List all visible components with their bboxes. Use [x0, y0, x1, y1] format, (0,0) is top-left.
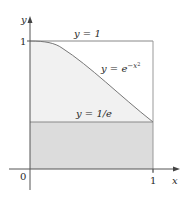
curve-label-gaussian-exponent-power: 2 [137, 61, 140, 67]
y-axis-arrow-icon [28, 16, 33, 23]
curve-label-gaussian: y = e−x2 [100, 61, 140, 74]
curve-label-y-equals-1: y = 1 [73, 28, 101, 39]
x-tick-label-1: 1 [150, 175, 156, 186]
x-axis-arrow-icon [173, 167, 180, 172]
curve-label-y-equals-1-over-e: y = 1/e [75, 108, 112, 119]
y-axis-label: y [20, 14, 27, 25]
curve-label-gaussian-exponent: −x [127, 62, 137, 70]
x-axis-label: x [172, 175, 178, 186]
curve-label-gaussian-base: y = e [100, 63, 127, 74]
origin-label: 0 [20, 171, 26, 182]
curve-label-y-equals-1-text: y = 1 [73, 28, 101, 39]
curve-label-y-equals-1-over-e-text: y = 1/e [75, 108, 112, 119]
y-tick-label-1: 1 [20, 36, 26, 47]
area-comparison-diagram: y x 0 1 1 y = 1 y = e−x2 y = 1/e [0, 0, 184, 198]
dark-shaded-region [30, 122, 153, 169]
